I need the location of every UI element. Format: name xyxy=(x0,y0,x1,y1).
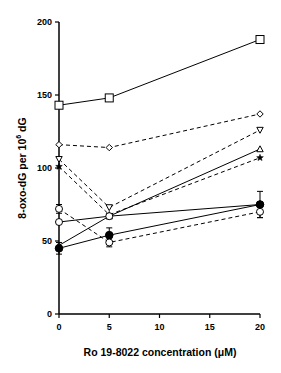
diamond-marker-icon xyxy=(106,144,112,150)
open-circle-marker-icon xyxy=(56,205,63,212)
series-filled-circle xyxy=(55,191,264,254)
series-open-circle-dashed xyxy=(56,205,264,247)
open-circle-marker-icon xyxy=(106,239,113,246)
x-tick-label: 15 xyxy=(205,322,215,332)
square-marker-icon xyxy=(55,101,63,109)
filled-circle-marker-icon xyxy=(55,245,63,253)
y-tick-label: 50 xyxy=(42,236,52,246)
open-circle-marker-icon xyxy=(56,219,63,226)
series-line xyxy=(59,158,260,215)
diamond-marker-icon xyxy=(56,141,62,147)
series-line xyxy=(59,114,260,148)
series-line xyxy=(59,205,260,223)
y-tick-label: 200 xyxy=(37,17,52,27)
square-marker-icon xyxy=(256,36,264,44)
y-tick-label: 100 xyxy=(37,163,52,173)
series-square xyxy=(55,36,264,110)
series-diamond xyxy=(56,111,263,151)
line-chart: 05010015020005101520 Ro 19-8022 concentr… xyxy=(0,0,281,373)
star-marker-icon xyxy=(257,154,264,160)
x-tick-label: 5 xyxy=(107,322,112,332)
triangle-down-marker-icon xyxy=(257,127,263,133)
series-triangle xyxy=(56,146,263,248)
x-tick-label: 0 xyxy=(56,322,61,332)
series-line xyxy=(59,149,260,245)
open-circle-marker-icon xyxy=(257,208,264,215)
x-axis-title: Ro 19-8022 concentration (μM) xyxy=(84,346,237,358)
series-line xyxy=(59,205,260,249)
y-tick-label: 0 xyxy=(47,309,52,319)
diamond-marker-icon xyxy=(257,111,263,117)
triangle-down-marker-icon xyxy=(106,205,112,211)
y-tick-label: 150 xyxy=(37,90,52,100)
x-tick-label: 10 xyxy=(154,322,164,332)
series-line xyxy=(59,40,260,106)
triangle-up-marker-icon xyxy=(257,146,263,152)
series-open-circle-solid xyxy=(56,201,264,226)
y-axis-title: 8-oxo-dG per 106 dG xyxy=(15,117,28,218)
series-group xyxy=(55,36,264,255)
series-line xyxy=(59,209,260,243)
open-circle-marker-icon xyxy=(106,213,113,220)
series-inverted-triangle xyxy=(56,127,263,210)
axes: 05010015020005101520 xyxy=(37,17,265,332)
square-marker-icon xyxy=(105,94,113,102)
x-tick-label: 20 xyxy=(255,322,265,332)
